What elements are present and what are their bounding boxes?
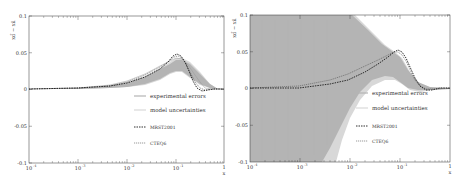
left-xtick-3: 10 [173, 165, 179, 171]
right-exp-band [250, 15, 450, 162]
right-panel: 0.1 0.05 0 -0.05 -0.1 10 -4 10 -3 10 -2 … [231, 12, 452, 175]
left-ytick-3: -0.05 [14, 123, 27, 129]
right-xexp-1: -3 [304, 163, 307, 167]
left-legend-exp-errors: experimental errors [150, 93, 206, 100]
left-ylabel: xd̄ − xū [10, 20, 16, 40]
right-ytick-3: -0.05 [235, 122, 248, 128]
left-ytick-2: 0 [24, 86, 27, 92]
left-y-ticks [29, 16, 224, 163]
right-xtick-1: 10 [297, 164, 303, 170]
right-xtick-3: 10 [397, 164, 403, 170]
left-xlabel: x [223, 170, 226, 176]
left-xexp-1: -3 [82, 164, 85, 168]
right-xlabel: x [449, 169, 452, 175]
right-legend-model-unc: model uncertainties [372, 105, 428, 111]
right-xexp-0: -4 [254, 163, 258, 167]
left-xexp-3: -1 [180, 164, 183, 168]
right-ytick-0: 0.1 [240, 12, 248, 18]
right-legend-mrst2001: MRST2001 [372, 124, 398, 129]
left-plot-frame [29, 16, 224, 163]
right-legend-cteq6: CTEQ6 [372, 139, 388, 144]
left-panel: 0.1 0.05 0 -0.05 -0.1 10 -4 10 -3 10 -2 … [10, 13, 226, 176]
left-xtick-0: 10 [26, 165, 32, 171]
left-ytick-1: 0.05 [16, 50, 27, 56]
figure: 0.1 0.05 0 -0.05 -0.1 10 -4 10 -3 10 -2 … [0, 0, 456, 178]
right-ylabel: xd̄ − xū [231, 18, 237, 38]
right-xexp-3: -1 [404, 163, 407, 167]
right-xexp-2: -2 [354, 163, 357, 167]
right-ytick-2: 0 [245, 85, 248, 91]
left-xtick-2: 10 [124, 165, 130, 171]
left-legend-mrst2001: MRST2001 [150, 125, 176, 130]
left-ytick-0: 0.1 [19, 13, 27, 19]
left-xexp-2: -2 [131, 164, 134, 168]
right-legend: experimental errors model uncertainties … [356, 90, 428, 144]
right-xtick-0: 10 [247, 164, 253, 170]
right-legend-exp-errors: experimental errors [372, 90, 428, 97]
left-legend: experimental errors model uncertainties … [134, 93, 206, 146]
left-legend-cteq6: CTEQ6 [150, 141, 166, 146]
left-legend-model-unc: model uncertainties [150, 107, 206, 113]
left-xtick-1: 10 [75, 165, 81, 171]
right-ytick-1: 0.05 [237, 49, 248, 55]
left-x-minor-ticks [44, 16, 223, 163]
left-xexp-0: -4 [33, 164, 37, 168]
right-xtick-2: 10 [347, 164, 353, 170]
